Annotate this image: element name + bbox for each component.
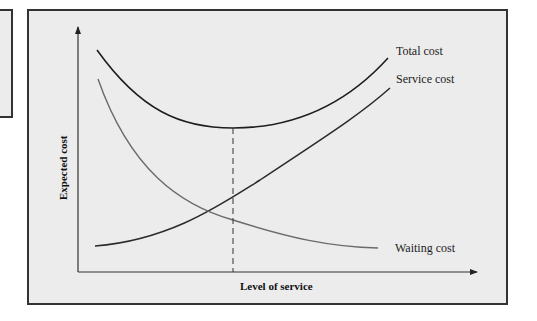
waiting-cost-label: Waiting cost [395, 241, 455, 256]
x-axis-label: Level of service [240, 280, 313, 292]
waiting-cost-curve [98, 79, 378, 248]
service-cost-label: Service cost [396, 72, 454, 87]
y-axis-label: Expected cost [57, 136, 69, 200]
total-cost-label: Total cost [396, 44, 443, 59]
total-cost-curve [97, 50, 388, 128]
chart-plot [0, 0, 537, 321]
